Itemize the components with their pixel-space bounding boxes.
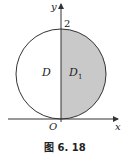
region-d-label: D	[41, 66, 51, 79]
y-tick-2: 2	[64, 18, 70, 29]
x-axis-label: x	[115, 121, 121, 132]
shaded-region-d1	[61, 29, 106, 119]
y-axis-label: y	[50, 1, 57, 12]
figure: y x O 2 D D 1 图 6. 18	[0, 0, 124, 158]
region-d1-subscript: 1	[78, 73, 82, 81]
region-d1-label: D	[68, 66, 78, 79]
origin-label: O	[49, 121, 57, 132]
figure-caption: 图 6. 18	[44, 142, 86, 153]
